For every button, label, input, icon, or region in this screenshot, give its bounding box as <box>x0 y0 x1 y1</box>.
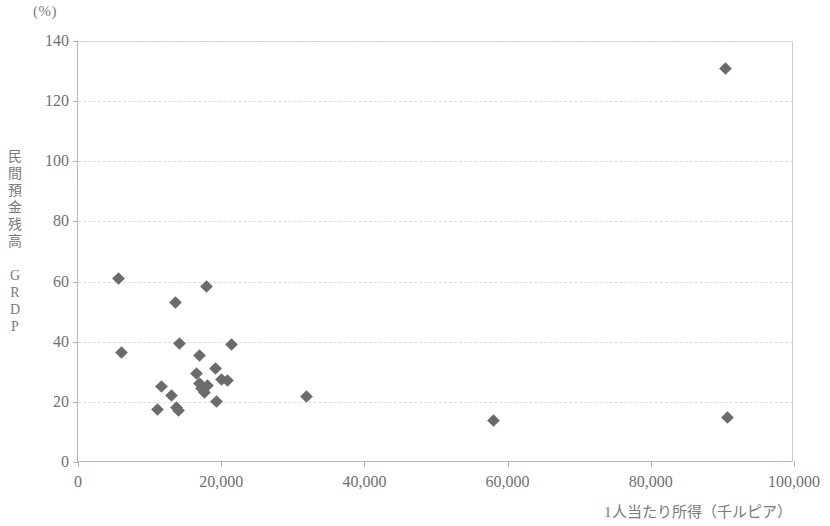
y-tick-label: 140 <box>45 32 69 50</box>
gridline-y <box>78 161 793 162</box>
x-tick-mark <box>794 461 795 467</box>
y-axis-title: 民 間 預 金 残 高 G R D P <box>4 148 26 335</box>
y-tick-label: 120 <box>45 92 69 110</box>
y-tick-label: 80 <box>53 212 69 230</box>
y-tick-mark <box>73 41 78 42</box>
x-tick-mark <box>221 461 222 467</box>
plot-area: 020406080100120140 020,00040,00060,00080… <box>77 41 793 462</box>
gridline-y <box>78 282 793 283</box>
y-tick-label: 40 <box>53 333 69 351</box>
y-tick-label: 60 <box>53 273 69 291</box>
x-tick-mark <box>78 461 79 467</box>
y-tick-mark <box>73 101 78 102</box>
gridline-y <box>78 402 793 403</box>
data-point <box>155 380 168 393</box>
gridline-y <box>78 41 793 42</box>
y-tick-mark <box>73 342 78 343</box>
y-tick-label: 0 <box>61 453 69 471</box>
data-point <box>115 346 128 359</box>
x-tick-label: 60,000 <box>486 473 530 491</box>
data-point <box>487 414 500 427</box>
x-tick-label: 100,000 <box>768 473 820 491</box>
x-tick-mark <box>364 461 365 467</box>
data-point <box>173 337 186 350</box>
y-tick-label: 100 <box>45 152 69 170</box>
data-point <box>112 272 125 285</box>
y-axis-unit-label: (%) <box>33 3 57 20</box>
data-point <box>193 349 206 362</box>
gridline-y <box>78 221 793 222</box>
x-tick-label: 0 <box>74 473 82 491</box>
x-tick-label: 20,000 <box>199 473 243 491</box>
y-tick-mark <box>73 161 78 162</box>
x-tick-label: 40,000 <box>342 473 386 491</box>
data-point <box>721 411 734 424</box>
x-axis-title: 1人当たり所得（千ルピア） <box>604 500 792 521</box>
gridline-y <box>78 101 793 102</box>
data-point <box>169 296 182 309</box>
y-tick-label: 20 <box>53 393 69 411</box>
data-point <box>211 395 224 408</box>
x-tick-label: 80,000 <box>629 473 673 491</box>
data-point <box>720 62 733 75</box>
data-point <box>225 338 238 351</box>
y-tick-mark <box>73 282 78 283</box>
chart-page: (%) 民 間 預 金 残 高 G R D P 0204060801001201… <box>0 0 830 526</box>
y-tick-mark <box>73 402 78 403</box>
y-tick-mark <box>73 221 78 222</box>
x-tick-mark <box>651 461 652 467</box>
data-point <box>151 403 164 416</box>
x-tick-mark <box>508 461 509 467</box>
